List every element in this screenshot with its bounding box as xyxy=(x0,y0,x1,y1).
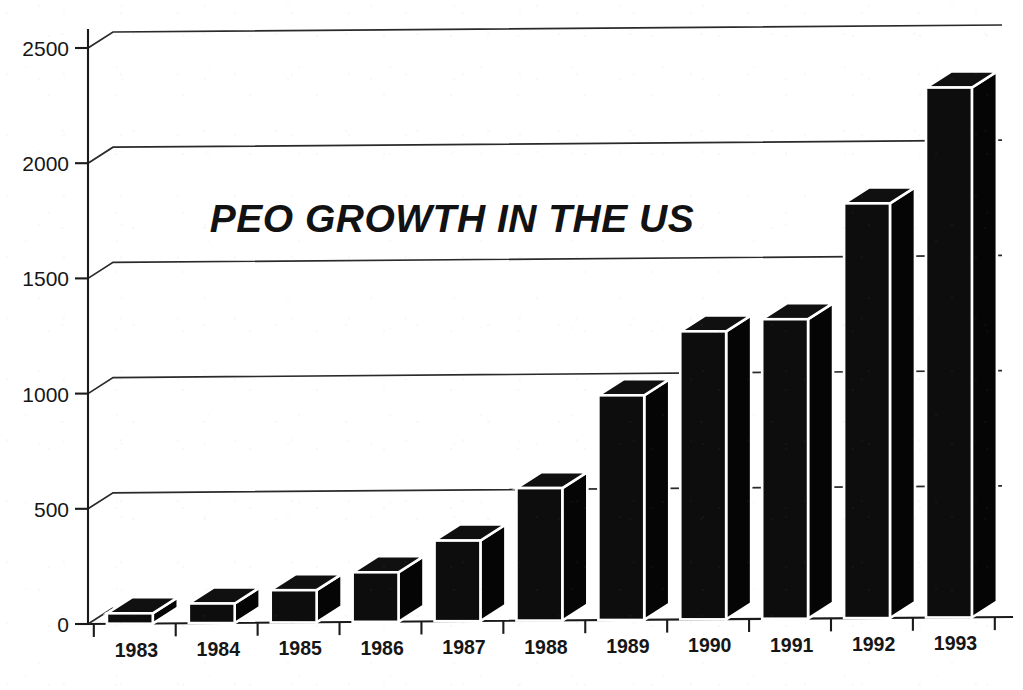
bar-side-face xyxy=(644,379,669,620)
x-tick-label-1989: 1989 xyxy=(606,635,650,657)
y-tick-label-500: 500 xyxy=(34,498,69,521)
bar-1993 xyxy=(926,72,997,618)
y-tick-label-0: 0 xyxy=(57,613,69,636)
bar-1986 xyxy=(353,556,424,622)
x-tick-label-1990: 1990 xyxy=(688,634,732,656)
gridline-2000 xyxy=(88,140,1002,163)
bar-1985 xyxy=(271,574,342,622)
x-tick-label-1992: 1992 xyxy=(852,633,896,655)
bar-front-face xyxy=(598,395,644,620)
bar-side-face xyxy=(726,315,751,619)
x-tick-label-1983: 1983 xyxy=(115,639,159,661)
bars-group xyxy=(107,72,997,624)
bar-front-face xyxy=(353,572,399,622)
bar-1990 xyxy=(680,315,751,619)
x-tick-label-1986: 1986 xyxy=(360,637,404,659)
bar-front-face xyxy=(435,541,481,622)
bar-front-face xyxy=(271,590,317,622)
bar-front-face xyxy=(107,613,153,623)
bar-side-face xyxy=(808,303,833,619)
bar-1984 xyxy=(189,587,260,623)
bar-front-face xyxy=(926,88,972,618)
bar-1983 xyxy=(107,597,178,623)
bar-1992 xyxy=(844,187,915,618)
bar-1987 xyxy=(435,525,506,622)
bar-side-face xyxy=(890,187,915,618)
y-tick-label-2000: 2000 xyxy=(22,152,69,175)
y-tick-label-1500: 1500 xyxy=(22,267,69,290)
bar-1989 xyxy=(598,379,669,620)
bar-side-face xyxy=(972,72,997,618)
bar-front-face xyxy=(762,319,808,619)
y-tick-label-2500: 2500 xyxy=(22,37,69,60)
x-tick-label-1988: 1988 xyxy=(524,636,568,658)
y-tick-label-1000: 1000 xyxy=(22,383,69,406)
x-tick-label-1985: 1985 xyxy=(279,637,323,659)
bar-1991 xyxy=(762,303,833,619)
bar-chart-canvas: 05001000150020002500 1983198419851986198… xyxy=(0,0,1023,690)
gridline-path xyxy=(88,25,1002,48)
bar-1988 xyxy=(516,472,587,620)
chart-figure: 05001000150020002500 1983198419851986198… xyxy=(0,0,1023,690)
bar-front-face xyxy=(680,331,726,619)
y-tick-labels-group: 05001000150020002500 xyxy=(22,37,69,636)
bar-front-face xyxy=(189,603,235,623)
x-tick-label-1984: 1984 xyxy=(197,638,241,660)
chart-title: PEO GROWTH IN THE US xyxy=(210,197,695,240)
x-tick-label-1991: 1991 xyxy=(770,634,814,656)
gridline-2500 xyxy=(88,25,1002,48)
bar-front-face xyxy=(844,203,890,618)
gridline-path xyxy=(88,140,1002,163)
x-tick-label-1987: 1987 xyxy=(442,636,485,658)
x-tick-label-1993: 1993 xyxy=(934,632,978,654)
y-tick-marks-group xyxy=(75,48,89,624)
bar-front-face xyxy=(516,488,562,620)
x-tick-labels-group: 1983198419851986198719881989199019911992… xyxy=(115,632,978,660)
bar-side-face xyxy=(562,472,587,620)
